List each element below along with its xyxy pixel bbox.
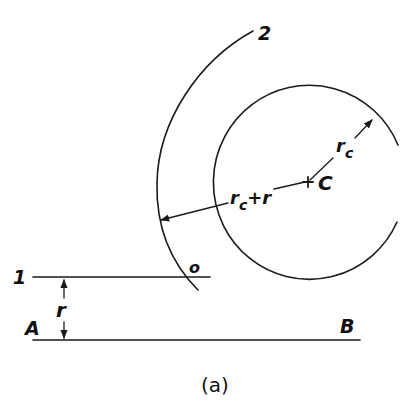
label-point-b: B	[340, 315, 354, 337]
label-point-a: A	[23, 317, 40, 339]
dim-rc-outer	[355, 120, 372, 138]
label-dim-rcr: rc+r	[230, 187, 272, 213]
dim-rcr-inner	[274, 182, 305, 189]
arc-2	[157, 31, 253, 290]
label-center-c: C	[318, 171, 333, 195]
figure-caption: (a)	[201, 373, 229, 397]
label-dim-rc: rc	[336, 135, 354, 161]
label-dim-r: r	[56, 298, 67, 322]
label-arc-2: 2	[258, 22, 271, 44]
label-line-1: 1	[13, 266, 26, 288]
diagram-figure: 2 1 o A B C r rc rc+r (a)	[0, 0, 408, 408]
label-point-o: o	[189, 258, 200, 277]
